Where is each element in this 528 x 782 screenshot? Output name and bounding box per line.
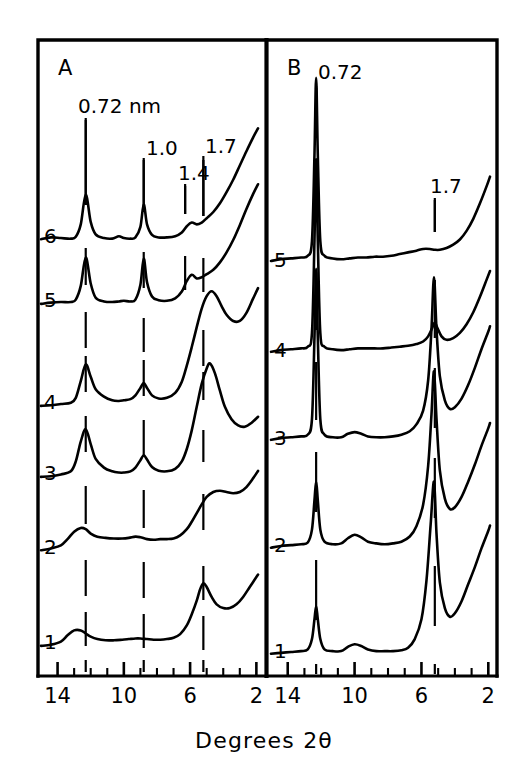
panel-a-peak-label-10: 1.0: [146, 136, 178, 160]
axis-tick-label: 10: [110, 684, 137, 708]
panel-b-peak-label-17: 1.7: [430, 174, 462, 198]
panel-b-trace-label-3: 3: [274, 426, 287, 450]
panel-a-trace-label-5: 5: [44, 288, 57, 312]
diffractogram-trace: [271, 482, 490, 654]
x-axis-title: Degrees 2θ: [195, 728, 333, 753]
panel-a-ticks: [58, 662, 257, 676]
diffractogram-trace: [41, 471, 258, 550]
panel-a-peak-label-14: 1.4: [178, 161, 210, 185]
panel-a-trace-label-6: 6: [44, 224, 57, 248]
panel-a-peak-label-17: 1.7: [205, 134, 237, 158]
panel-b-trace-label-5: 5: [274, 248, 287, 272]
panel-a-tick-labels: 141062: [44, 684, 263, 708]
panel-a-traces: [41, 128, 258, 646]
panel-b-trace-label-2: 2: [274, 533, 287, 557]
panel-a-trace-label-3: 3: [44, 461, 57, 485]
xrd-figure: A B 0.72 nm 1.0 1.4 1.7 0.72 1.7 6 5 4 3…: [0, 0, 528, 782]
panel-b-tick-labels: 141062: [274, 684, 495, 708]
panel-b-letter: B: [287, 56, 302, 80]
axis-tick-label: 2: [250, 684, 263, 708]
panel-b-peak-label-072: 0.72: [318, 60, 363, 84]
diffractogram-trace: [41, 575, 258, 646]
diffractogram-trace: [41, 184, 258, 304]
diffractogram-trace: [41, 288, 258, 406]
axis-tick-label: 14: [274, 684, 301, 708]
axis-tick-label: 6: [415, 684, 428, 708]
axis-tick-label: 10: [341, 684, 368, 708]
panel-b-traces: [271, 78, 490, 654]
panel-b-trace-label-4: 4: [274, 338, 287, 362]
panel-b-frame: [268, 40, 497, 676]
panel-a-letter: A: [58, 56, 73, 80]
panel-a-peak-label-072: 0.72 nm: [78, 94, 161, 118]
diffractogram-trace: [271, 269, 490, 440]
axis-tick-label: 6: [183, 684, 196, 708]
axis-tick-label: 2: [482, 684, 495, 708]
diffractogram-trace: [41, 363, 258, 477]
diffractogram-trace: [271, 371, 490, 547]
diffractogram-trace: [271, 78, 490, 261]
panel-b-trace-label-1: 1: [274, 639, 287, 663]
xrd-diffractogram-svg: A B 0.72 nm 1.0 1.4 1.7 0.72 1.7 6 5 4 3…: [0, 0, 528, 782]
panel-b-label-leaders: [316, 86, 435, 232]
panel-a-trace-label-1: 1: [44, 630, 57, 654]
panel-b-guidelines: [316, 88, 435, 674]
panel-a-trace-label-2: 2: [44, 535, 57, 559]
axis-tick-label: 14: [44, 684, 71, 708]
panel-b-ticks: [288, 662, 489, 676]
panel-a-trace-label-4: 4: [44, 390, 57, 414]
